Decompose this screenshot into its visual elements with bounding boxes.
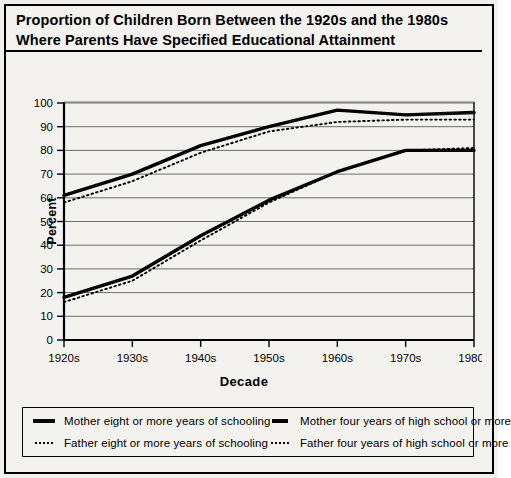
y-tick-label: 60 (40, 192, 53, 204)
series-line-1 (64, 120, 474, 203)
x-tick-label: 1950s (253, 352, 285, 364)
x-tick-label: 1940s (185, 352, 217, 364)
data-series-layer (64, 110, 474, 302)
legend-label: Mother eight or more years of schooling (64, 415, 271, 427)
legend-item-father-high-school: Father four years of high school or more (265, 437, 471, 449)
x-axis-label: Decade (6, 374, 482, 389)
legend-item-mother-eight-years: Mother eight or more years of schooling (29, 415, 265, 427)
series-line-2 (64, 150, 474, 297)
dotted-line-icon (33, 437, 55, 449)
x-tick-label: 1970s (390, 352, 422, 364)
legend-label: Mother four years of high school or more (300, 415, 511, 427)
title-line-2: Where Parents Have Specified Educational… (16, 30, 482, 50)
legend-row-2: Father eight or more years of schooling … (29, 432, 467, 454)
x-tick-label: 1920s (48, 352, 80, 364)
legend-label: Father eight or more years of schooling (64, 437, 268, 449)
y-axis-ticks: 0102030405060708090100 (34, 97, 64, 346)
y-tick-label: 100 (34, 97, 53, 109)
solid-thick-line-icon (33, 415, 55, 427)
y-tick-label: 90 (40, 121, 53, 133)
title-line-1: Proportion of Children Born Between the … (16, 10, 482, 30)
y-tick-label: 10 (40, 310, 53, 322)
y-tick-label: 80 (40, 144, 53, 156)
legend: Mother eight or more years of schooling … (22, 407, 474, 457)
y-tick-label: 20 (40, 287, 53, 299)
x-tick-label: 1960s (322, 352, 354, 364)
x-axis-ticks: 1920s1930s1940s1950s1960s1970s1980s (48, 340, 482, 364)
x-tick-label: 1930s (117, 352, 149, 364)
y-tick-label: 0 (47, 334, 53, 346)
y-tick-label: 30 (40, 263, 53, 275)
gridlines (64, 103, 474, 316)
y-tick-label: 40 (40, 239, 53, 251)
y-tick-label: 70 (40, 168, 53, 180)
plot-area: Percent 0102030405060708090100 1920s1930… (6, 54, 482, 399)
x-tick-label: 1980s (458, 352, 482, 364)
legend-row-1: Mother eight or more years of schooling … (29, 410, 467, 432)
solid-thick-line-icon (269, 415, 291, 427)
chart-title: Proportion of Children Born Between the … (6, 6, 482, 52)
legend-label: Father four years of high school or more (300, 437, 509, 449)
dotted-line-icon (269, 437, 291, 449)
plot-svg: 0102030405060708090100 1920s1930s1940s19… (6, 54, 482, 372)
legend-item-mother-high-school: Mother four years of high school or more (265, 415, 471, 427)
legend-item-father-eight-years: Father eight or more years of schooling (29, 437, 265, 449)
y-tick-label: 50 (40, 216, 53, 228)
